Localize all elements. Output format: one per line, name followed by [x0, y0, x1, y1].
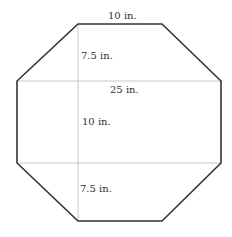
- lower-height-label: 7.5 in.: [80, 184, 112, 194]
- octagon-diagram: 10 in. 7.5 in. 25 in. 10 in. 7.5 in.: [0, 0, 232, 237]
- octagon-outline: [17, 24, 221, 221]
- middle-height-label: 10 in.: [82, 117, 111, 127]
- upper-height-label: 7.5 in.: [81, 51, 113, 61]
- octagon-figure: [0, 0, 232, 237]
- top-edge-label: 10 in.: [108, 11, 137, 21]
- width-label: 25 in.: [110, 85, 139, 95]
